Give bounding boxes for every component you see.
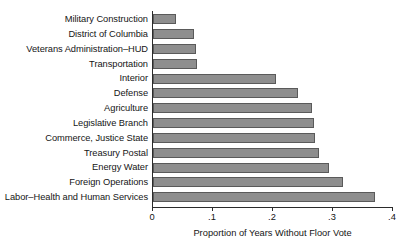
bar-row: District of Columbia [0,27,410,42]
category-label: Labor–Health and Human Services [5,190,148,205]
x-tick-label: 0 [149,212,154,222]
bar [153,192,375,202]
bar [153,74,276,84]
x-tick-label: .1 [208,212,216,222]
category-label: District of Columbia [68,27,148,42]
bar [153,163,329,173]
bar [153,118,314,128]
bar [153,59,197,69]
x-axis-ticks: 0.1.2.3.4 [0,207,410,227]
x-tick-mark [152,207,153,211]
plot-area: Military ConstructionDistrict of Columbi… [0,0,410,248]
bar [153,103,312,113]
bar-row: Energy Water [0,160,410,175]
category-label: Legislative Branch [73,116,148,131]
bar-rows: Military ConstructionDistrict of Columbi… [0,12,410,205]
category-label: Interior [119,71,148,86]
x-tick-label: .2 [268,212,276,222]
bar-chart: Military ConstructionDistrict of Columbi… [0,0,410,248]
category-label: Veterans Administration–HUD [26,42,148,57]
bar-row: Foreign Operations [0,175,410,190]
x-tick-label: .4 [388,212,396,222]
bar [153,177,343,187]
category-label: Energy Water [92,160,148,175]
bar-row: Labor–Health and Human Services [0,190,410,205]
category-label: Agriculture [104,101,148,116]
bar-row: Interior [0,71,410,86]
x-tick-mark [272,207,273,211]
category-label: Foreign Operations [69,175,148,190]
bar-row: Treasury Postal [0,146,410,161]
category-label: Commerce, Justice State [45,131,148,146]
bar-row: Transportation [0,57,410,72]
bar-row: Legislative Branch [0,116,410,131]
bar-row: Veterans Administration–HUD [0,42,410,57]
bar-row: Defense [0,86,410,101]
category-label: Treasury Postal [84,146,148,161]
x-tick-mark [392,207,393,211]
category-label: Military Construction [65,12,148,27]
bar [153,14,176,24]
bar [153,148,319,158]
bar [153,133,315,143]
x-tick-mark [332,207,333,211]
x-axis-title: Proportion of Years Without Floor Vote [152,228,393,238]
bar [153,88,298,98]
bar [153,44,196,54]
bar-row: Agriculture [0,101,410,116]
category-label: Transportation [89,57,148,72]
x-tick-label: .3 [328,212,336,222]
x-tick-mark [212,207,213,211]
category-label: Defense [114,86,148,101]
bar-row: Commerce, Justice State [0,131,410,146]
bar [153,29,194,39]
bar-row: Military Construction [0,12,410,27]
